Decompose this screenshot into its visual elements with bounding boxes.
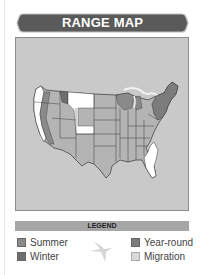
range-map-banner: RANGE MAP (15, 13, 190, 33)
bird-silhouette-icon (88, 238, 114, 264)
winter-swatch (17, 252, 26, 261)
summer-swatch (17, 238, 26, 247)
page-left-rule (4, 0, 5, 275)
legend-header: LEGEND (15, 221, 189, 231)
us-map (16, 38, 188, 210)
legend-label-year-round: Year-round (144, 237, 193, 248)
page-title: RANGE MAP (15, 13, 190, 33)
migration-swatch (131, 252, 140, 261)
legend-label-migration: Migration (144, 251, 185, 262)
legend-item-year-round: Year-round (131, 236, 193, 248)
year-round-swatch (131, 238, 140, 247)
legend-item-winter: Winter (17, 250, 59, 262)
legend-label-winter: Winter (30, 251, 59, 262)
range-map (15, 37, 189, 211)
legend-item-summer: Summer (17, 236, 68, 248)
legend-label-summer: Summer (30, 237, 68, 248)
legend-item-migration: Migration (131, 250, 185, 262)
